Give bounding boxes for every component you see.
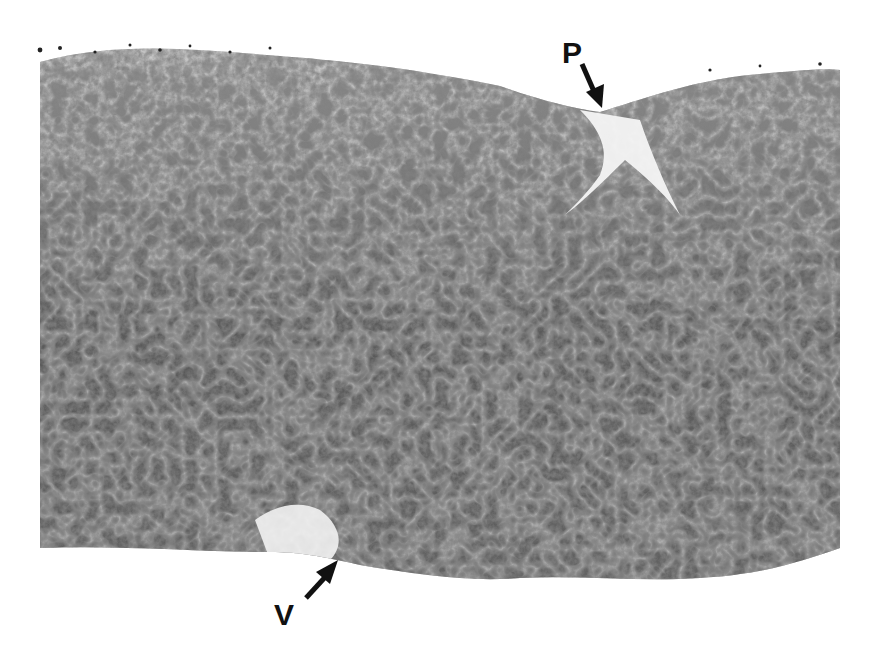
arrow-v-icon	[302, 558, 342, 602]
micrograph-tissue	[0, 0, 878, 665]
arrow-p-icon	[578, 62, 608, 112]
annotation-label-v: V	[274, 600, 294, 630]
